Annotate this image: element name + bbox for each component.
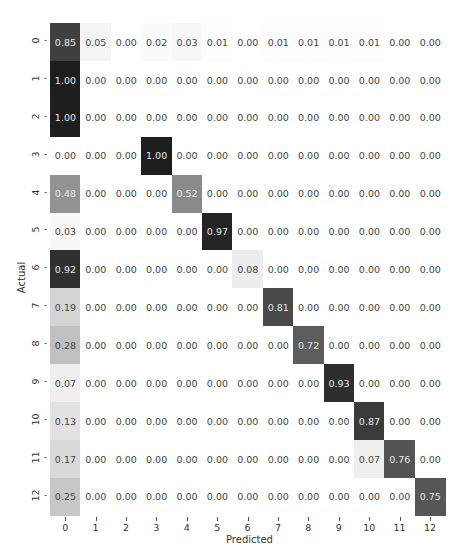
heatmap-cell: 0.00 — [202, 61, 233, 99]
x-tick-label: 6 — [236, 522, 260, 533]
heatmap-cell: 0.00 — [415, 364, 446, 402]
y-tick-mark: - — [44, 490, 47, 500]
heatmap-cell: 0.08 — [232, 250, 263, 288]
heatmap-cell: 0.00 — [111, 326, 142, 364]
heatmap-cell: 0.00 — [172, 364, 203, 402]
y-tick-mark: - — [44, 338, 47, 348]
heatmap-cell: 0.00 — [232, 402, 263, 440]
confusion-matrix-heatmap: 0.850.050.000.020.030.010.000.010.010.01… — [0, 0, 463, 559]
heatmap-cell: 0.00 — [202, 288, 233, 326]
heatmap-cell: 0.00 — [293, 250, 324, 288]
heatmap-cell: 0.00 — [80, 137, 111, 175]
heatmap-cell: 0.00 — [293, 175, 324, 213]
heatmap-cell: 0.00 — [232, 61, 263, 99]
heatmap-cell: 0.00 — [172, 440, 203, 478]
heatmap-cell: 0.13 — [50, 402, 81, 440]
y-tick-mark: - — [44, 224, 47, 234]
heatmap-cell: 0.00 — [263, 61, 294, 99]
x-tick-mark — [156, 517, 157, 521]
heatmap-cell: 0.00 — [293, 99, 324, 137]
heatmap-cell: 0.00 — [80, 402, 111, 440]
heatmap-cell: 0.00 — [80, 250, 111, 288]
heatmap-cell: 0.00 — [232, 213, 263, 251]
heatmap-cell: 0.00 — [263, 478, 294, 516]
y-tick-mark: - — [44, 414, 47, 424]
heatmap-cell: 0.00 — [324, 250, 355, 288]
heatmap-cell: 0.00 — [415, 288, 446, 326]
x-tick-mark — [308, 517, 309, 521]
heatmap-cell: 0.00 — [232, 440, 263, 478]
x-tick-mark — [217, 517, 218, 521]
y-tick-mark: - — [44, 149, 47, 159]
y-tick-label: 2 — [30, 106, 41, 126]
heatmap-cell: 0.00 — [111, 288, 142, 326]
heatmap-cell: 0.00 — [263, 99, 294, 137]
heatmap-cell: 0.85 — [50, 23, 81, 61]
heatmap-cell: 0.00 — [293, 478, 324, 516]
heatmap-cell: 0.00 — [324, 440, 355, 478]
x-tick-label: 0 — [53, 522, 77, 533]
y-tick-mark: - — [44, 452, 47, 462]
y-tick-label: 1 — [30, 68, 41, 88]
heatmap-cell: 0.00 — [415, 440, 446, 478]
heatmap-cell: 0.97 — [202, 213, 233, 251]
heatmap-cell: 0.00 — [80, 440, 111, 478]
x-tick-mark — [400, 517, 401, 521]
heatmap-cell: 0.00 — [293, 364, 324, 402]
heatmap-cell: 0.00 — [202, 250, 233, 288]
heatmap-cell: 0.00 — [384, 61, 415, 99]
heatmap-cell: 0.00 — [232, 23, 263, 61]
y-tick-label: 6 — [30, 258, 41, 278]
x-tick-label: 11 — [388, 522, 412, 533]
heatmap-cell: 0.00 — [354, 478, 385, 516]
heatmap-cell: 0.00 — [172, 326, 203, 364]
heatmap-cell: 0.00 — [141, 478, 172, 516]
heatmap-cell: 0.00 — [111, 99, 142, 137]
heatmap-cell: 0.00 — [263, 175, 294, 213]
heatmap-cell: 0.76 — [384, 440, 415, 478]
x-tick-label: 3 — [144, 522, 168, 533]
heatmap-cell: 0.00 — [141, 364, 172, 402]
y-tick-label: 9 — [30, 372, 41, 392]
x-tick-mark — [369, 517, 370, 521]
x-tick-label: 7 — [266, 522, 290, 533]
heatmap-cell: 0.00 — [172, 99, 203, 137]
heatmap-cell: 0.00 — [415, 23, 446, 61]
heatmap-cell: 0.00 — [111, 250, 142, 288]
heatmap-cell: 0.00 — [354, 250, 385, 288]
heatmap-cell: 0.25 — [50, 478, 81, 516]
heatmap-cell: 0.00 — [141, 99, 172, 137]
y-tick-label: 10 — [30, 409, 41, 429]
heatmap-cell: 0.81 — [263, 288, 294, 326]
heatmap-cell: 0.00 — [141, 213, 172, 251]
heatmap-cell: 0.00 — [232, 288, 263, 326]
y-tick-mark: - — [44, 35, 47, 45]
heatmap-cell: 0.00 — [141, 250, 172, 288]
heatmap-cell: 0.00 — [384, 478, 415, 516]
heatmap-cell: 0.00 — [232, 99, 263, 137]
heatmap-cell: 0.92 — [50, 250, 81, 288]
heatmap-cell: 0.00 — [263, 326, 294, 364]
heatmap-cell: 0.00 — [141, 288, 172, 326]
heatmap-cell: 0.01 — [202, 23, 233, 61]
heatmap-cell: 0.07 — [354, 440, 385, 478]
heatmap-cell: 0.00 — [172, 250, 203, 288]
heatmap-cell: 0.00 — [111, 61, 142, 99]
heatmap-cell: 0.00 — [111, 364, 142, 402]
heatmap-cell: 0.48 — [50, 175, 81, 213]
heatmap-cell: 0.00 — [141, 440, 172, 478]
heatmap-cell: 0.00 — [354, 137, 385, 175]
x-tick-mark — [65, 517, 66, 521]
heatmap-cell: 0.00 — [354, 288, 385, 326]
heatmap-cell: 0.00 — [232, 326, 263, 364]
heatmap-cell: 0.00 — [324, 175, 355, 213]
x-tick-label: 5 — [205, 522, 229, 533]
heatmap-cell: 0.01 — [324, 23, 355, 61]
heatmap-cell: 0.00 — [415, 99, 446, 137]
heatmap-cell: 0.00 — [324, 61, 355, 99]
heatmap-cell: 0.52 — [172, 175, 203, 213]
heatmap-cell: 0.00 — [202, 440, 233, 478]
heatmap-cell: 0.00 — [415, 61, 446, 99]
heatmap-cell: 0.00 — [111, 23, 142, 61]
y-tick-mark: - — [44, 376, 47, 386]
